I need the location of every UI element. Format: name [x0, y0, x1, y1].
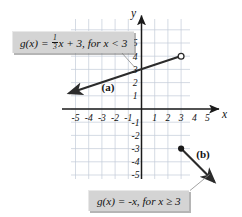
- fraction-numerator: 1: [52, 34, 58, 42]
- open-circle-endpoint-a: [178, 53, 184, 59]
- y-tick--3: -3: [132, 143, 140, 154]
- x-tick-3: 3: [178, 112, 184, 123]
- ray-a-line: [69, 56, 180, 93]
- y-tick--4: -4: [132, 156, 140, 167]
- x-tick--4: -4: [85, 112, 93, 123]
- callout-a-equals: =: [41, 37, 49, 49]
- callout-a-lhs: g(x): [20, 37, 38, 49]
- callout-box-equation-a: g(x) = 1 3 x + 3, for x < 3: [12, 31, 134, 53]
- curve-label-a: (a): [102, 81, 115, 94]
- x-tick-2: 2: [166, 112, 171, 123]
- y-tick--1: -1: [132, 117, 140, 128]
- x-tick-4: 4: [192, 112, 197, 123]
- figure-canvas: -5 -4 -3 -2 -1 1 2 3 4 5 5 4 3 2 1 -1 -2…: [0, 0, 242, 217]
- fraction-denominator: 3: [52, 42, 58, 51]
- leader-line-b: [190, 175, 210, 191]
- closed-circle-endpoint-b: [178, 146, 184, 152]
- curve-label-b: (b): [196, 148, 210, 161]
- y-tick--5: -5: [132, 169, 140, 180]
- callout-b-text: g(x) = -x, for x ≥ 3: [97, 195, 181, 207]
- y-axis-label: y: [130, 7, 137, 20]
- x-tick--5: -5: [72, 112, 80, 123]
- callout-a-rhs: x + 3, for x < 3: [58, 37, 127, 49]
- y-tick-2: 2: [133, 77, 138, 88]
- y-tick-1: 1: [133, 90, 138, 101]
- y-tick--2: -2: [132, 130, 140, 141]
- callout-box-equation-b: g(x) = -x, for x ≥ 3: [88, 190, 189, 211]
- x-tick-5: 5: [205, 112, 210, 123]
- x-axis-label: x: [221, 108, 228, 120]
- fraction-one-third: 1 3: [52, 34, 58, 50]
- y-tick-3: 3: [132, 64, 138, 75]
- x-tick--2: -2: [111, 112, 119, 123]
- x-tick--3: -3: [98, 112, 106, 123]
- x-tick-1: 1: [152, 112, 157, 123]
